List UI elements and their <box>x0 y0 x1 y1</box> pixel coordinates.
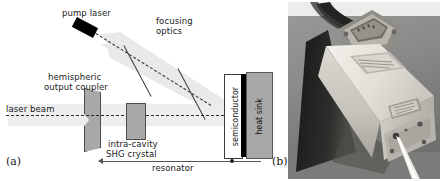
output-coupler-label-line2: output coupler <box>44 82 108 92</box>
resonator-endpoint-dot <box>230 159 234 163</box>
laser-beam-label: laser beam <box>6 104 55 114</box>
focusing-optics-label-line1: focusing <box>156 16 193 26</box>
shg-crystal-icon <box>126 103 146 140</box>
figure-container: pump laser focusing optics hemispheric o… <box>0 0 442 181</box>
pump-beam-dashed-path <box>95 33 211 106</box>
shg-crystal-label-line1: intra-cavity <box>108 139 158 149</box>
panel-b-letter: (b) <box>272 155 288 168</box>
resonator-span-line <box>101 161 261 162</box>
pump-laser-icon <box>72 17 98 38</box>
focusing-optics-label-line2: optics <box>156 26 182 36</box>
semiconductor-label: semiconductor <box>231 77 240 157</box>
resonator-label: resonator <box>152 163 194 173</box>
heat-sink-label: heat sink <box>255 87 264 147</box>
laser-beam-axis <box>6 115 234 116</box>
shg-crystal-label-line2: SHG crystal <box>106 149 157 159</box>
panel-a-letter: (a) <box>6 155 21 168</box>
panel-a-schematic: pump laser focusing optics hemispheric o… <box>0 0 272 181</box>
pump-laser-label: pump laser <box>62 8 111 18</box>
output-coupler-label-line1: hemispheric <box>48 72 101 82</box>
laser-device-photo <box>288 2 440 179</box>
resonator-arrow-left <box>98 158 103 164</box>
panel-b-photograph <box>288 2 440 179</box>
